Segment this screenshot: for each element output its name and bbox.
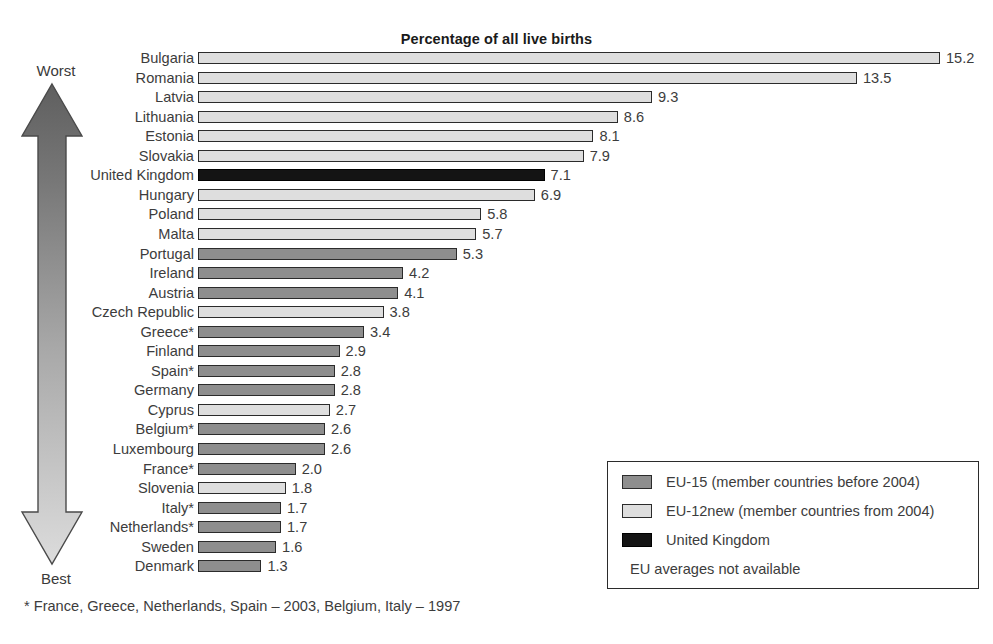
bar-eu12new <box>198 189 535 201</box>
legend-label: EU-15 (member countries before 2004) <box>666 472 920 492</box>
chart-row: Bulgaria15.2 <box>0 51 993 71</box>
category-label: Luxembourg <box>113 442 194 456</box>
bar-value-label: 8.6 <box>624 110 644 124</box>
chart-row: Finland2.9 <box>0 344 993 364</box>
bar-uk <box>198 169 545 181</box>
category-label: Germany <box>134 383 194 397</box>
bar-eu15 <box>198 541 276 553</box>
bar-eu15 <box>198 423 325 435</box>
category-label: Netherlands* <box>110 520 194 534</box>
category-label: Italy* <box>162 501 194 515</box>
category-label: Slovakia <box>139 149 194 163</box>
bar-value-label: 5.3 <box>463 247 483 261</box>
bar-value-label: 1.3 <box>267 559 287 573</box>
bar-eu12new <box>198 111 618 123</box>
chart-row: Portugal5.3 <box>0 247 993 267</box>
bar-value-label: 7.1 <box>551 168 571 182</box>
chart-row: Czech Republic3.8 <box>0 305 993 325</box>
chart-row: Lithuania8.6 <box>0 110 993 130</box>
category-label: United Kingdom <box>90 168 194 182</box>
chart-row: Ireland4.2 <box>0 266 993 286</box>
category-label: Sweden <box>141 540 194 554</box>
bar-value-label: 2.8 <box>341 364 361 378</box>
category-label: Cyprus <box>148 403 194 417</box>
bar-eu15 <box>198 521 281 533</box>
chart-row: Romania13.5 <box>0 71 993 91</box>
bar-eu15 <box>198 384 335 396</box>
bar-value-label: 1.7 <box>287 520 307 534</box>
bar-value-label: 2.6 <box>331 422 351 436</box>
chart-row: Latvia9.3 <box>0 90 993 110</box>
bar-value-label: 13.5 <box>863 71 891 85</box>
category-label: Poland <box>149 207 194 221</box>
bar-eu12new <box>198 306 384 318</box>
bar-eu15 <box>198 463 296 475</box>
category-label: Lithuania <box>135 110 194 124</box>
bar-eu12new <box>198 91 652 103</box>
bar-value-label: 2.0 <box>302 462 322 476</box>
category-label: Malta <box>158 227 194 241</box>
bar-value-label: 4.2 <box>409 266 429 280</box>
bar-value-label: 3.8 <box>390 305 410 319</box>
category-label: Ireland <box>149 266 194 280</box>
bar-value-label: 6.9 <box>541 188 561 202</box>
bar-value-label: 5.8 <box>487 207 507 221</box>
bar-eu12new <box>198 52 940 64</box>
category-label: Slovenia <box>138 481 194 495</box>
bar-value-label: 3.4 <box>370 325 390 339</box>
chart-row: Greece*3.4 <box>0 325 993 345</box>
bar-eu12new <box>198 482 286 494</box>
bar-eu12new <box>198 150 584 162</box>
chart-row: United Kingdom7.1 <box>0 168 993 188</box>
chart-row: Belgium*2.6 <box>0 422 993 442</box>
chart-page: Percentage of all live births Worst Best… <box>0 0 993 644</box>
chart-row: Spain*2.8 <box>0 364 993 384</box>
category-label: Spain* <box>151 364 194 378</box>
bar-eu15 <box>198 345 340 357</box>
bar-value-label: 2.9 <box>346 344 366 358</box>
chart-row: Luxembourg2.6 <box>0 442 993 462</box>
category-label: Latvia <box>155 90 194 104</box>
bar-value-label: 2.7 <box>336 403 356 417</box>
bar-value-label: 5.7 <box>482 227 502 241</box>
chart-row: Austria4.1 <box>0 286 993 306</box>
chart-row: Cyprus2.7 <box>0 403 993 423</box>
category-label: Finland <box>146 344 194 358</box>
chart-footnote: * France, Greece, Netherlands, Spain – 2… <box>24 598 460 614</box>
bar-value-label: 15.2 <box>946 51 974 65</box>
bar-eu12new <box>198 228 476 240</box>
bar-value-label: 1.6 <box>282 540 302 554</box>
bar-eu15 <box>198 248 457 260</box>
category-label: Estonia <box>145 129 194 143</box>
chart-row: Malta5.7 <box>0 227 993 247</box>
bar-eu12new <box>198 208 481 220</box>
chart-legend: EU-15 (member countries before 2004)EU-1… <box>607 461 979 589</box>
bar-value-label: 1.8 <box>292 481 312 495</box>
category-label: Belgium* <box>136 422 194 436</box>
category-label: Greece* <box>140 325 194 339</box>
bar-eu12new <box>198 72 857 84</box>
category-label: France* <box>143 462 194 476</box>
chart-row: Estonia8.1 <box>0 129 993 149</box>
bar-value-label: 2.8 <box>341 383 361 397</box>
category-label: Denmark <box>135 559 194 573</box>
legend-label: EU-12new (member countries from 2004) <box>666 501 934 521</box>
chart-row: Germany2.8 <box>0 383 993 403</box>
chart-row: Hungary6.9 <box>0 188 993 208</box>
legend-swatch-eu12new <box>622 504 652 518</box>
bar-eu15 <box>198 443 325 455</box>
bar-eu15 <box>198 267 403 279</box>
category-label: Czech Republic <box>92 305 194 319</box>
bar-eu15 <box>198 326 364 338</box>
bar-value-label: 9.3 <box>658 90 678 104</box>
category-label: Romania <box>136 71 194 85</box>
bar-eu15 <box>198 365 335 377</box>
category-label: Bulgaria <box>140 51 194 65</box>
bar-eu15 <box>198 560 261 572</box>
category-label: Hungary <box>139 188 194 202</box>
bar-value-label: 4.1 <box>404 286 424 300</box>
legend-swatch-uk <box>622 533 652 547</box>
chart-row: Slovakia7.9 <box>0 149 993 169</box>
category-label: Portugal <box>140 247 194 261</box>
bar-value-label: 2.6 <box>331 442 351 456</box>
